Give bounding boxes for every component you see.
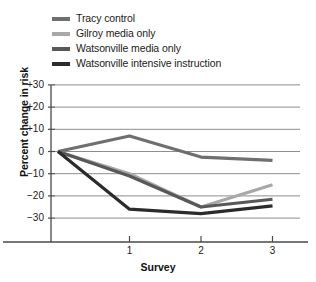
y-axis-title: Percent change in risk [18,52,30,192]
plot-area: +30+20+100−10−20−30 123 Percent change i… [0,0,316,282]
y-tick-label: −30 [14,213,44,223]
chart-container: Tracy control Gilroy media only Watsonvi… [0,0,316,282]
series-line-0 [58,136,273,160]
x-tick-label: 2 [191,246,211,256]
x-tick-label: 3 [263,246,283,256]
x-axis-title: Survey [0,261,316,273]
x-tick-label: 1 [120,246,140,256]
plot-svg [0,0,316,282]
y-tick-label: −20 [14,191,44,201]
